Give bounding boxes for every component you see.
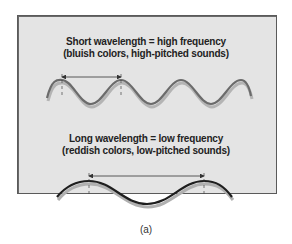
wave-diagram xyxy=(0,0,292,244)
long-wave-subtitle: (reddish colors, low-pitched sounds) xyxy=(0,145,292,157)
long-wave xyxy=(57,173,233,207)
figure-caption: (a) xyxy=(0,224,292,235)
long-wave-title: Long wavelength = low frequency xyxy=(0,133,292,145)
short-wave xyxy=(47,74,252,107)
